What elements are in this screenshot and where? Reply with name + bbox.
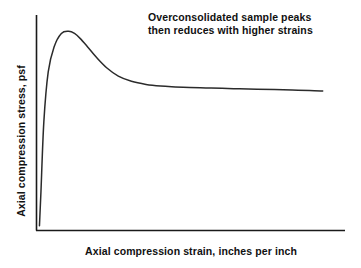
chart-annotation: Overconsolidated sample peaks then reduc… [148,11,348,37]
x-axis-label-text: Axial compression strain, inches per inc… [85,245,297,257]
stress-strain-curve [39,31,322,226]
annotation-line-1: Overconsolidated sample peaks [148,11,348,24]
chart-canvas [0,0,361,268]
stress-strain-chart: Axial compression stress, psf Axial comp… [0,0,361,268]
annotation-line-2: then reduces with higher strains [148,24,348,37]
x-axis-label: Axial compression strain, inches per inc… [36,243,346,259]
